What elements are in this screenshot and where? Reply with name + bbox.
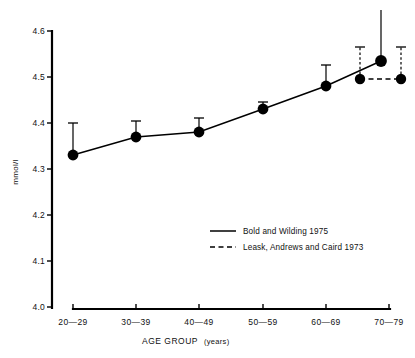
data-point	[321, 81, 332, 92]
data-point	[68, 150, 79, 161]
x-axis-title: AGE GROUP	[142, 336, 198, 346]
x-tick-label: 30—39	[121, 317, 150, 327]
y-tick-label: 4.4	[33, 118, 45, 128]
data-point	[194, 127, 205, 138]
y-axis-title: mmol/l	[11, 159, 20, 184]
y-tick-labels: 4.6 4.5 4.4 4.3 4.2 4.1 4.0	[33, 26, 45, 312]
y-tick-label: 4.2	[33, 210, 45, 220]
series-line	[73, 61, 381, 155]
y-tick-label: 4.3	[33, 164, 45, 174]
x-tick-label: 50—59	[248, 317, 277, 327]
legend-item-bold-wilding: Bold and Wilding 1975	[210, 227, 328, 236]
y-tick-label: 4.0	[33, 302, 45, 312]
chart-svg: mmol/l 4.6 4.5 4.4 4.3 4.2 4.1 4.0	[0, 0, 415, 358]
chart-legend: Bold and Wilding 1975 Leask, Andrews and…	[210, 227, 364, 252]
y-tick-label: 4.1	[33, 256, 45, 266]
series-bold-wilding	[68, 10, 387, 160]
data-point	[396, 74, 406, 84]
chart-figure: mmol/l 4.6 4.5 4.4 4.3 4.2 4.1 4.0	[0, 0, 415, 358]
x-tick-label: 70—79	[374, 317, 403, 327]
x-axis-title-unit: (years)	[204, 337, 230, 346]
y-tick-label: 4.6	[33, 26, 45, 36]
data-point	[131, 132, 142, 143]
data-point	[258, 104, 269, 115]
x-tick-label: 40—49	[184, 317, 213, 327]
x-tick-label: 60—69	[311, 317, 340, 327]
data-point	[355, 74, 365, 84]
x-tick-label: 20—29	[58, 317, 87, 327]
y-tick-label: 4.5	[33, 72, 45, 82]
legend-item-leask-andrews-caird: Leask, Andrews and Caird 1973	[210, 243, 364, 252]
data-point	[375, 55, 387, 67]
legend-label: Bold and Wilding 1975	[243, 227, 328, 236]
legend-label: Leask, Andrews and Caird 1973	[243, 243, 364, 252]
x-tick-labels: 20—29 30—39 40—49 50—59 60—69 70—79	[58, 317, 403, 327]
